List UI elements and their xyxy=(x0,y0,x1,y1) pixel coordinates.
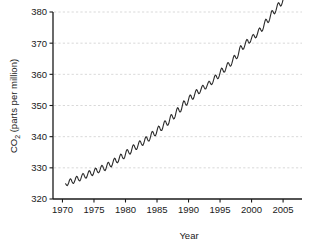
co2-chart-figure: 320330340350360370380 197019751980198519… xyxy=(0,0,312,247)
x-tick-label: 2000 xyxy=(241,204,262,215)
x-tick-label: 1980 xyxy=(115,204,136,215)
x-tick-label: 1985 xyxy=(146,204,167,215)
y-axis-title: CO2 (parts per million) xyxy=(8,59,21,153)
y-tick-label: 330 xyxy=(31,162,47,173)
x-tick-label: 1970 xyxy=(52,204,73,215)
chart-canvas: 320330340350360370380 197019751980198519… xyxy=(0,0,312,247)
x-tick-label: 1990 xyxy=(178,204,199,215)
y-tick-label: 370 xyxy=(31,38,47,49)
x-tick-label: 1995 xyxy=(209,204,230,215)
y-tick-label: 320 xyxy=(31,193,47,204)
y-tick-label: 380 xyxy=(31,6,47,17)
y-tick-label: 340 xyxy=(31,131,47,142)
y-tick-label: 350 xyxy=(31,100,47,111)
x-tick-label: 1975 xyxy=(83,204,104,215)
y-tick-label: 360 xyxy=(31,69,47,80)
x-axis-title: Year xyxy=(179,230,198,241)
x-tick-label: 2005 xyxy=(273,204,294,215)
